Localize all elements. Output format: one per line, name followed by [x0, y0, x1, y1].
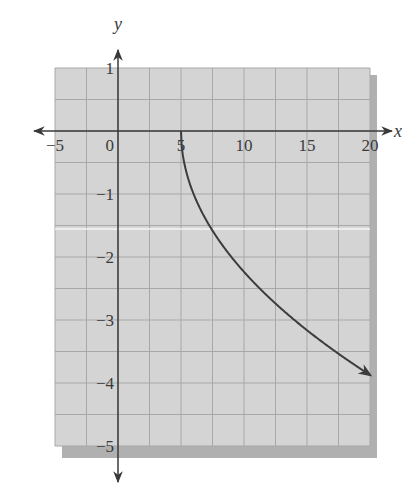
function-graph: −5051015201−1−2−3−4−5 x y: [0, 0, 404, 488]
y-tick-label: −4: [96, 374, 115, 393]
y-axis-label: y: [112, 14, 122, 34]
y-tick-label: −5: [96, 437, 114, 456]
y-tick-label: −1: [96, 185, 114, 204]
x-tick-label: 0: [106, 136, 115, 155]
x-tick-label: −5: [46, 136, 64, 155]
y-tick-label: −3: [96, 311, 114, 330]
y-tick-label: 1: [106, 59, 115, 78]
y-tick-label: −2: [96, 248, 114, 267]
x-tick-label: 10: [236, 136, 253, 155]
x-axis-label: x: [393, 121, 402, 141]
x-tick-label: 20: [362, 136, 379, 155]
x-tick-label: 15: [299, 136, 316, 155]
